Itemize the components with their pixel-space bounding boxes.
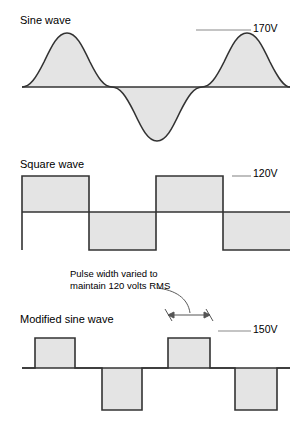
pulse-width-arrow-left <box>168 312 174 318</box>
pulse-width-annotation-line-2: maintain 120 volts RMS <box>70 280 170 291</box>
modified-sine-wave-graphic <box>22 288 290 410</box>
modified-sine-wave-label: Modified sine wave <box>20 313 114 326</box>
square-wave-graphic <box>22 176 290 250</box>
sine-peak-value-label: 170V <box>253 22 278 34</box>
square-wave-fill-negative-1 <box>89 212 156 250</box>
sine-wave-fill-negative <box>112 87 202 141</box>
sine-wave-graphic <box>22 30 290 141</box>
sine-wave-label: Sine wave <box>20 14 71 27</box>
modsine-fill-negative-2 <box>235 368 277 410</box>
square-peak-value-label: 120V <box>253 167 278 179</box>
pulse-width-arrow-right <box>204 312 210 318</box>
pulse-width-annotation: Pulse width varied tomaintain 120 volts … <box>70 268 170 291</box>
square-wave-fill-negative-2 <box>223 212 290 250</box>
square-wave-fill-positive <box>22 176 89 212</box>
square-wave-label: Square wave <box>20 158 84 171</box>
modified-sine-peak-value-label: 150V <box>253 323 278 335</box>
modsine-fill-positive-2 <box>168 338 210 368</box>
waveform-diagram: Sine wave 170V Square wave 120V Modified… <box>0 0 308 427</box>
annotation-leader-curve <box>157 288 190 313</box>
modsine-fill-positive-1 <box>35 338 75 368</box>
square-wave-fill-positive-2 <box>156 176 223 212</box>
pulse-width-dimension <box>165 309 213 321</box>
modsine-fill-negative-1 <box>102 368 142 410</box>
waveform-canvas <box>0 0 308 427</box>
pulse-width-annotation-line-1: Pulse width varied to <box>70 268 158 279</box>
